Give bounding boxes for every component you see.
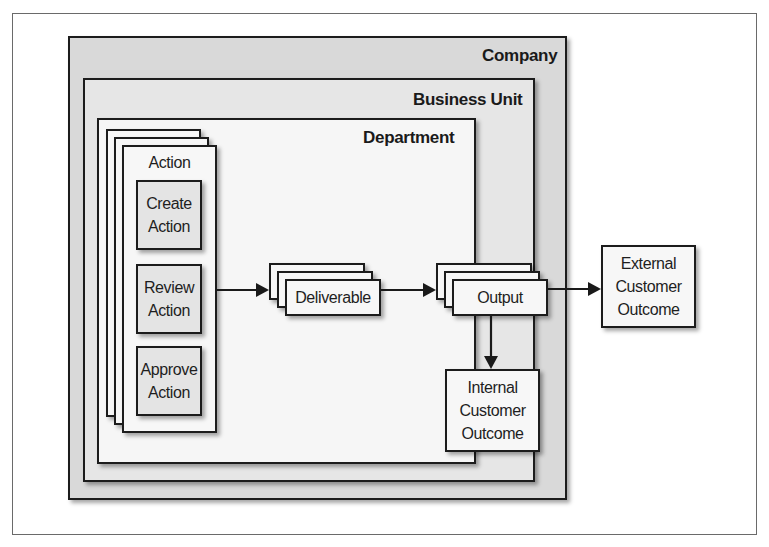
output-box: Output <box>452 279 548 316</box>
approve-action-line2: Action <box>148 384 190 401</box>
external-outcome-line1: External <box>621 255 677 272</box>
create-action-box: CreateAction <box>136 180 202 250</box>
business-unit-label: Business Unit <box>413 90 522 110</box>
review-action-line1: Review <box>144 279 194 296</box>
department-label: Department <box>363 128 454 148</box>
company-label: Company <box>482 46 557 66</box>
output-label: Output <box>477 286 523 309</box>
internal-outcome-line2: Customer <box>459 402 525 419</box>
external-customer-outcome-box: ExternalCustomerOutcome <box>601 245 696 328</box>
review-action-line2: Action <box>148 302 190 319</box>
deliverable-box: Deliverable <box>285 279 381 316</box>
internal-customer-outcome-box: InternalCustomerOutcome <box>445 369 540 452</box>
action-group-title: Action <box>124 151 215 174</box>
approve-action-box: ApproveAction <box>136 346 202 416</box>
create-action-line2: Action <box>148 218 190 235</box>
internal-outcome-line1: Internal <box>467 379 517 396</box>
deliverable-label: Deliverable <box>295 286 371 309</box>
create-action-line1: Create <box>146 195 192 212</box>
internal-outcome-line3: Outcome <box>461 425 523 442</box>
approve-action-line1: Approve <box>141 361 198 378</box>
external-outcome-line3: Outcome <box>617 301 679 318</box>
review-action-box: ReviewAction <box>136 264 202 334</box>
external-outcome-line2: Customer <box>615 278 681 295</box>
